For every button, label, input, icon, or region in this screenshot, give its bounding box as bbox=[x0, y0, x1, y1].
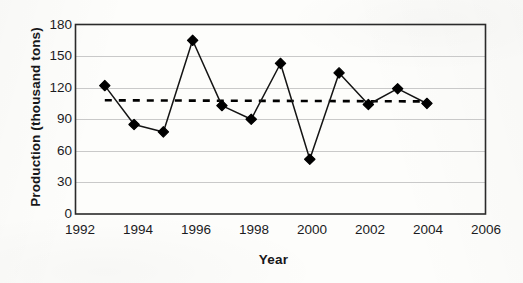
data-point-1998 bbox=[246, 114, 256, 124]
data-point-1995 bbox=[158, 127, 168, 137]
data-point-2003 bbox=[392, 84, 402, 94]
gridlines bbox=[76, 57, 486, 183]
chart-figure: Production (thousand tons) Year 180 150 … bbox=[0, 0, 523, 283]
data-point-1996 bbox=[187, 35, 197, 45]
data-point-2004 bbox=[422, 98, 432, 108]
plot-area bbox=[0, 0, 523, 283]
data-point-1999 bbox=[275, 58, 285, 68]
trend-line bbox=[105, 100, 427, 101]
data-point-2000 bbox=[305, 154, 315, 164]
